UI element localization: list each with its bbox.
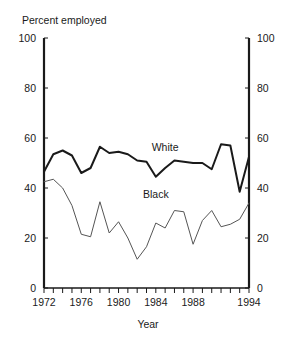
y-tick-label-left: 80: [24, 82, 36, 94]
chart-figure: Percent employed 020406080100 0204060801…: [0, 0, 304, 342]
y-tick-label-right: 40: [257, 182, 269, 194]
x-tick-label: 1988: [181, 296, 205, 308]
series-label-white: White: [152, 141, 179, 153]
employment-line-chart: Percent employed 020406080100 0204060801…: [0, 0, 304, 342]
series-label-black: Black: [143, 188, 169, 200]
x-tick-label: 1976: [70, 296, 94, 308]
y-tick-label-left: 60: [24, 132, 36, 144]
y-tick-label-right: 20: [257, 232, 269, 244]
y-tick-label-left: 0: [30, 282, 36, 294]
y-tick-label-right: 60: [257, 132, 269, 144]
y-tick-label-left: 40: [24, 182, 36, 194]
x-tick-label: 1980: [107, 296, 131, 308]
y-tick-label-right: 80: [257, 82, 269, 94]
x-axis-title: Year: [137, 318, 159, 330]
x-tick-label: 1994: [237, 296, 261, 308]
y-tick-label-left: 100: [18, 32, 36, 44]
y-tick-label-right: 100: [257, 32, 275, 44]
x-tick-label: 1984: [144, 296, 168, 308]
y-axis-title: Percent employed: [22, 14, 107, 26]
y-tick-label-right: 0: [257, 282, 263, 294]
y-tick-label-left: 20: [24, 232, 36, 244]
x-tick-label: 1972: [32, 296, 56, 308]
